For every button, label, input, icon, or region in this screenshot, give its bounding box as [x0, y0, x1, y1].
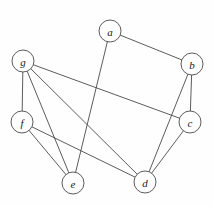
graph-node-f[interactable]: f	[11, 111, 33, 133]
graph-node-circle-f	[11, 111, 33, 133]
graph-node-circle-d	[134, 171, 156, 193]
graph-edge-a-b	[120, 35, 182, 60]
graph-node-a[interactable]: a	[99, 20, 121, 42]
graph-node-e[interactable]: e	[62, 172, 84, 194]
edge-layer	[22, 35, 191, 177]
graph-figure: abcdefg	[0, 0, 214, 206]
graph-node-circle-e	[62, 172, 84, 194]
graph-edge-c-d	[152, 131, 184, 173]
graph-node-circle-a	[99, 20, 121, 42]
graph-node-d[interactable]: d	[134, 171, 156, 193]
graph-node-circle-b	[181, 53, 203, 75]
graph-node-circle-g	[12, 50, 34, 72]
graph-node-b[interactable]: b	[181, 53, 203, 75]
graph-canvas: abcdefg	[0, 0, 214, 206]
node-layer: abcdefg	[11, 20, 203, 194]
graph-edge-b-c	[190, 75, 191, 111]
graph-edge-g-d	[31, 69, 137, 175]
graph-node-circle-c	[179, 111, 201, 133]
graph-edge-c-g	[33, 65, 179, 118]
graph-edge-a-e	[76, 42, 108, 173]
graph-node-g[interactable]: g	[12, 50, 34, 72]
graph-node-c[interactable]: c	[179, 111, 201, 133]
graph-edge-g-f	[22, 72, 23, 111]
